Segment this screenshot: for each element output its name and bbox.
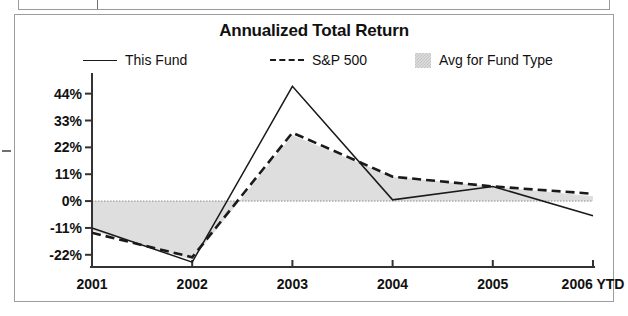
y-axis-tick-label: -22% <box>26 247 82 263</box>
x-axis-tick-label: 2002 <box>177 276 208 292</box>
table-fragment-above-chart <box>18 0 610 10</box>
y-axis-tick-label: -11% <box>26 220 82 236</box>
avg-fund-type-area <box>92 135 593 260</box>
y-axis-tick-label: 22% <box>26 139 82 155</box>
y-axis-tick-label: 33% <box>26 113 82 129</box>
x-axis-tick-label: 2004 <box>377 276 408 292</box>
table-cell-divider <box>97 0 98 9</box>
x-axis-tick-label: 2003 <box>277 276 308 292</box>
y-axis-tick-label: 0% <box>26 193 82 209</box>
x-axis-tick-label: 2005 <box>477 276 508 292</box>
x-axis-tick-label: 2001 <box>76 276 107 292</box>
y-axis-tick-label: 11% <box>26 166 82 182</box>
y-axis-tick-label: 44% <box>26 86 82 102</box>
plot-area: 44%33%22%11%0%-11%-22% 20012002200320042… <box>15 15 615 303</box>
plot-svg <box>15 15 615 303</box>
chart-panel: Annualized Total Return This Fund S&P 50… <box>14 14 614 302</box>
left-margin-dash-mark <box>2 150 11 152</box>
x-axis-tick-label: 2006 YTD <box>562 276 625 292</box>
